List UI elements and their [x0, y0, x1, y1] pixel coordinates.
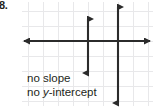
annotation-text-block: no slope no y-intercept — [27, 71, 97, 99]
annotation-intercept-prefix: no — [27, 86, 43, 98]
annotation-line-intercept: no y-intercept — [27, 85, 97, 99]
graph-figure: 8. no slope no y-intercept — [0, 0, 155, 110]
annotation-intercept-suffix: -intercept — [49, 86, 97, 98]
annotation-line-slope: no slope — [27, 71, 97, 85]
